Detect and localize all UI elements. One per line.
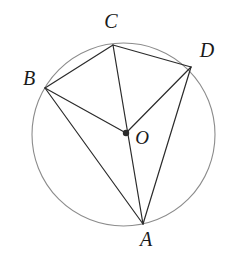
geometry-canvas: ABCDO [0,0,240,256]
center-point-O [123,130,129,136]
chord-BA [45,88,143,224]
vertex-label-B: B [23,67,35,89]
chord-BC [45,45,113,88]
geometry-figure: ABCDO [0,0,240,256]
vertex-label-D: D [199,39,215,61]
radius-BO [45,88,126,133]
chord-CD [113,45,191,67]
segments-group [45,45,191,224]
vertex-label-C: C [104,10,118,32]
vertex-label-O: O [135,127,149,148]
vertex-label-A: A [138,228,153,250]
